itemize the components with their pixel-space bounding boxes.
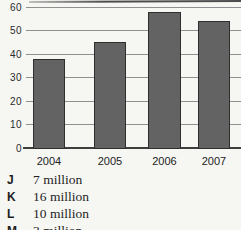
answer-letter-M: M [7, 224, 23, 230]
y-tick-label-50: 50 [0, 25, 22, 36]
y-tick-label-30: 30 [0, 72, 22, 83]
answer-letter-K: K [7, 190, 23, 204]
x-category-label-2004: 2004 [27, 155, 71, 167]
bar-chart-figure: 0102030405060 2004200520062007 J7 millio… [0, 0, 241, 230]
y-tick-label-20: 20 [0, 96, 22, 107]
answer-text-K: 16 million [33, 189, 89, 205]
answer-option-row-M: M3 million [0, 223, 241, 230]
bar-2007 [198, 21, 230, 149]
y-tick-label-40: 40 [0, 49, 22, 60]
bar-2004 [33, 59, 65, 149]
y-tick-label-10: 10 [0, 119, 22, 130]
answer-text-L: 10 million [33, 206, 89, 222]
bar-2006 [148, 12, 181, 149]
answer-option-row-J: J7 million [0, 172, 241, 189]
x-category-label-2005: 2005 [88, 155, 132, 167]
answer-letter-J: J [7, 173, 23, 187]
top-rule-line [29, 0, 241, 3]
answer-option-row-L: L10 million [0, 206, 241, 223]
answer-letter-L: L [7, 207, 23, 221]
gridline-60 [26, 7, 241, 8]
answer-text-J: 7 million [33, 172, 82, 188]
bar-2005 [94, 42, 126, 149]
answer-option-row-K: K16 million [0, 189, 241, 206]
y-tick-label-60: 60 [0, 2, 22, 13]
x-category-label-2006: 2006 [143, 155, 187, 167]
y-tick-label-0: 0 [0, 143, 22, 154]
answer-text-M: 3 million [33, 223, 82, 230]
x-category-label-2007: 2007 [192, 155, 236, 167]
